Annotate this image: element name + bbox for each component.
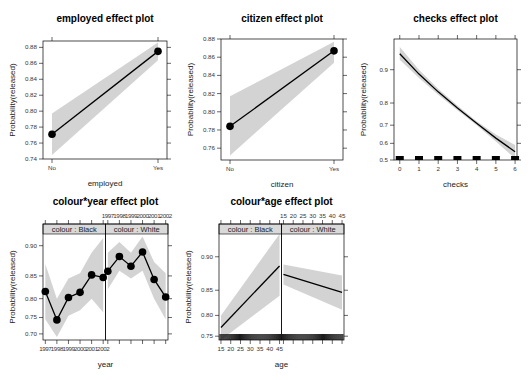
facet-strip-label: colour : Black (52, 225, 97, 234)
rug-mark (453, 156, 461, 160)
data-point (88, 271, 96, 279)
x-tick-label-top: 15 (280, 212, 287, 219)
chart-title: colour*year effect plot (53, 196, 159, 207)
plot-panel: NoYes (221, 35, 343, 172)
y-axis-label: Probability(released) (359, 62, 368, 136)
facet-panel: colour : Black199719981999200020012002 (39, 220, 110, 352)
x-tick-label-top: 35 (319, 212, 326, 219)
y-tick-label: 0.88 (25, 43, 38, 50)
y-axis-label: Probability(released) (8, 63, 17, 137)
y-tick-label: 0.70 (25, 330, 38, 337)
confidence-band (52, 43, 158, 155)
x-tick-label: 20 (227, 345, 234, 352)
y-tick-label: 0.86 (203, 53, 216, 60)
x-tick-label-top: 20 (290, 212, 297, 219)
citizen-effect-plot: citizen effect plotcitizenProbability(re… (186, 13, 347, 189)
chart-title: checks effect plot (413, 13, 498, 24)
effect-plots-figure: employed effect plotemployedProbability(… (0, 0, 531, 380)
x-tick-label: 40 (266, 345, 273, 352)
data-point (76, 289, 84, 297)
facet-panel: colour : White199719981999200020012002 (102, 212, 173, 344)
data-point (330, 47, 338, 55)
data-point (53, 316, 61, 324)
y-tick-label: 0.74 (25, 155, 38, 162)
effect-line (52, 51, 158, 134)
y-tick-label: 0.84 (203, 71, 216, 78)
y-tick-label: 0.76 (203, 144, 216, 151)
x-axis-label: checks (443, 180, 468, 189)
x-axis-label: age (275, 360, 289, 369)
y-axis-label: Probability(released) (186, 62, 195, 136)
data-point (226, 123, 234, 131)
confidence-band (230, 42, 334, 156)
x-tick-label: 30 (247, 345, 254, 352)
y-tick-label: 0.90 (201, 253, 214, 260)
y-tick-label: 0.78 (203, 126, 216, 133)
chart-title: employed effect plot (56, 13, 154, 24)
x-tick-label-top: 2002 (160, 212, 173, 219)
y-tick-label: 0.75 (201, 332, 214, 339)
y-tick-label: 0.82 (25, 91, 38, 98)
x-tick-label-top: 40 (329, 212, 336, 219)
confidence-band (283, 264, 342, 309)
x-axis-label: year (98, 360, 114, 369)
facet-strip-label: colour : White (114, 225, 160, 234)
y-tick-label: 0.80 (25, 107, 38, 114)
employed-effect-plot: employed effect plotemployedProbability(… (8, 13, 171, 188)
y-tick-label: 0.5 (379, 156, 388, 163)
y-tick-label: 0.85 (201, 286, 214, 293)
rug-mark (473, 156, 481, 160)
data-point (150, 276, 158, 284)
y-tick-label: 0.88 (203, 35, 216, 42)
rug-mark (396, 156, 404, 160)
y-axis-label: Probability(released) (184, 250, 193, 324)
y-tick-label: 0.78 (25, 123, 38, 130)
x-tick-label: 15 (218, 345, 225, 352)
y-tick-label: 0.80 (201, 311, 214, 318)
chart-title: citizen effect plot (241, 13, 323, 24)
x-tick-label-top: 25 (300, 212, 307, 219)
x-tick-label: 0 (398, 165, 402, 172)
checks-effect-plot: checks effect plotchecksProbability(rele… (359, 13, 521, 189)
data-point (48, 130, 56, 138)
facet-strip-label: colour : Black (228, 225, 273, 234)
y-tick-label: 0.75 (25, 313, 38, 320)
x-tick-label: 2002 (97, 345, 110, 352)
y-tick-label: 0.7 (379, 121, 388, 128)
colour-age-effect-plot: colour*age effect plotageProbability(rel… (184, 196, 348, 369)
x-tick-label-top: 45 (339, 212, 346, 219)
plot-panel: 0123456 (394, 35, 519, 172)
facet-panel: colour : Black15202530354045 (218, 220, 284, 352)
x-tick-label: No (226, 165, 234, 172)
chart-title: colour*age effect plot (230, 196, 333, 207)
data-point (116, 253, 124, 261)
x-tick-label: 5 (494, 165, 498, 172)
x-tick-label: No (48, 164, 56, 171)
x-tick-label: 35 (257, 345, 264, 352)
y-tick-label: 0.90 (25, 242, 38, 249)
y-tick-label: 0.85 (25, 272, 38, 279)
data-point (65, 294, 73, 302)
confidence-band (400, 47, 515, 158)
confidence-band (221, 234, 280, 340)
colour-year-effect-plot: colour*year effect plotyearProbability(r… (8, 196, 173, 369)
y-tick-label: 0.9 (379, 66, 388, 73)
x-tick-label: 25 (237, 345, 244, 352)
data-point (127, 262, 135, 270)
y-tick-label: 0.76 (25, 139, 38, 146)
y-tick-label: 0.80 (203, 108, 216, 115)
y-tick-label: 0.8 (379, 99, 388, 106)
x-tick-label: 4 (475, 165, 479, 172)
x-tick-label: 2 (436, 165, 440, 172)
facet-strip-label: colour : White (290, 225, 336, 234)
x-tick-label: 6 (513, 165, 517, 172)
data-point (154, 48, 162, 56)
data-point (139, 248, 147, 256)
x-tick-label: 1 (417, 165, 421, 172)
x-tick-label: 45 (276, 345, 283, 352)
y-axis-label: Probability(released) (8, 250, 17, 324)
y-tick-label: 0.84 (25, 75, 38, 82)
x-tick-label: Yes (153, 164, 163, 171)
x-tick-label-top: 30 (309, 212, 316, 219)
rug-mark (415, 156, 423, 160)
